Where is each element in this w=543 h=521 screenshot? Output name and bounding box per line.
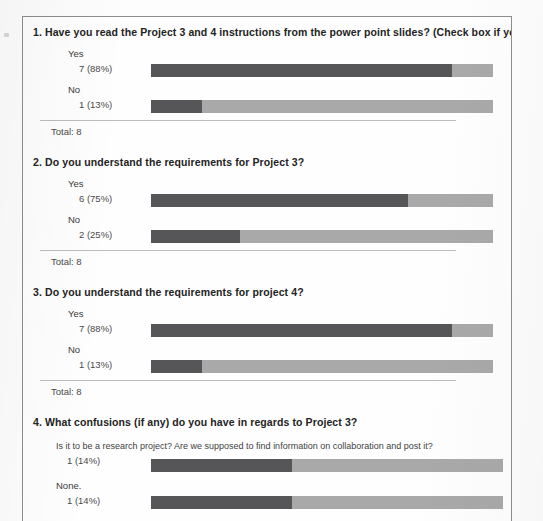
answers-list-4: Is it to be a research project? Are we s… — [23, 429, 511, 516]
answer-bar-fill — [151, 64, 452, 77]
answer-bar-fill — [151, 194, 408, 207]
answer-option-label: No — [68, 344, 511, 356]
question-block-3: 3. Do you understand the requirements fo… — [23, 277, 511, 407]
answer-option-label: Is it to be a research project? Are we s… — [56, 440, 511, 452]
answer-bar — [151, 360, 493, 373]
answer-row: Is it to be a research project? Are we s… — [56, 440, 511, 480]
answer-bar — [151, 64, 493, 77]
scan-artifact — [4, 33, 9, 37]
answer-bar — [151, 324, 493, 337]
answer-bar — [151, 194, 493, 207]
answer-bar — [151, 230, 493, 243]
answer-row: Yes 7 (88%) — [68, 308, 511, 344]
answer-row: Yes 6 (75%) — [68, 178, 511, 214]
answer-bar — [151, 496, 503, 509]
total-label: Total: 8 — [23, 121, 511, 147]
answer-bar-fill — [151, 360, 202, 373]
question-block-1: 1. Have you read the Project 3 and 4 ins… — [23, 17, 511, 147]
answer-bar-fill — [151, 324, 452, 337]
answer-row: Yes 7 (88%) — [68, 48, 511, 84]
answer-option-label: Yes — [68, 48, 511, 60]
answers-list-2: Yes 6 (75%) No 2 (25%) — [23, 169, 511, 250]
question-title-4: 4. What confusions (if any) do you have … — [23, 407, 511, 429]
question-title-1: 1. Have you read the Project 3 and 4 ins… — [23, 17, 511, 39]
answer-row: None. 1 (14%) — [56, 480, 511, 516]
answer-option-label: Yes — [68, 178, 511, 190]
question-block-2: 2. Do you understand the requirements fo… — [23, 147, 511, 277]
answer-bar — [151, 100, 493, 113]
answer-option-label: None. — [56, 480, 511, 492]
answer-bar — [151, 459, 503, 472]
answers-list-3: Yes 7 (88%) No 1 (13%) — [23, 299, 511, 380]
question-block-4: 4. What confusions (if any) do you have … — [23, 407, 511, 516]
answer-bar-fill — [151, 230, 240, 243]
answer-option-label: No — [68, 214, 511, 226]
survey-report-page: 1. Have you read the Project 3 and 4 ins… — [22, 16, 512, 521]
total-label: Total: 8 — [23, 381, 511, 407]
answer-row: No 1 (13%) — [68, 344, 511, 380]
answer-bar-fill — [151, 459, 292, 472]
question-title-3: 3. Do you understand the requirements fo… — [23, 277, 511, 299]
answer-row: No 1 (13%) — [68, 84, 511, 120]
answer-option-label: Yes — [68, 308, 511, 320]
answer-bar-fill — [151, 100, 202, 113]
answer-bar-fill — [151, 496, 292, 509]
answers-list-1: Yes 7 (88%) No 1 (13%) — [23, 39, 511, 120]
answer-row: No 2 (25%) — [68, 214, 511, 250]
question-title-2: 2. Do you understand the requirements fo… — [23, 147, 511, 169]
answer-option-label: No — [68, 84, 511, 96]
total-label: Total: 8 — [23, 251, 511, 277]
